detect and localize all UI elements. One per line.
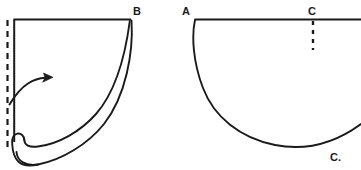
right-drape-arc: [193, 20, 361, 147]
right-panel: [193, 20, 361, 147]
label-c-bottom: C.: [330, 152, 341, 163]
left-roll-inner-curve: [24, 21, 130, 147]
left-panel: [8, 20, 132, 166]
left-curl-tip: [12, 134, 38, 166]
diagram-canvas: [0, 0, 361, 170]
label-b: B: [133, 6, 141, 17]
label-c-top: C: [308, 6, 316, 17]
left-roll-outer-curve: [17, 21, 132, 165]
label-a: A: [182, 6, 190, 17]
